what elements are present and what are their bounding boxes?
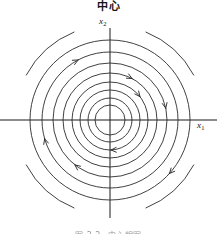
figure-caption-number: 图 2.2	[75, 231, 101, 234]
phase-portrait-figure: 中心 x2 x1 图 2.2中心相图	[0, 0, 217, 234]
outer-arc-fragment	[26, 165, 74, 208]
axis-lines	[0, 28, 217, 218]
figure-caption-subject: 中心相图	[108, 231, 142, 234]
flow-direction-arrow	[72, 60, 78, 65]
figure-caption: 图 2.2中心相图	[0, 225, 217, 234]
figure-caption-text: 图 2.2中心相图	[75, 231, 142, 234]
phase-portrait-canvas	[0, 0, 217, 234]
outer-arc-fragment	[26, 32, 74, 75]
outer-arc-fragment	[146, 32, 194, 75]
